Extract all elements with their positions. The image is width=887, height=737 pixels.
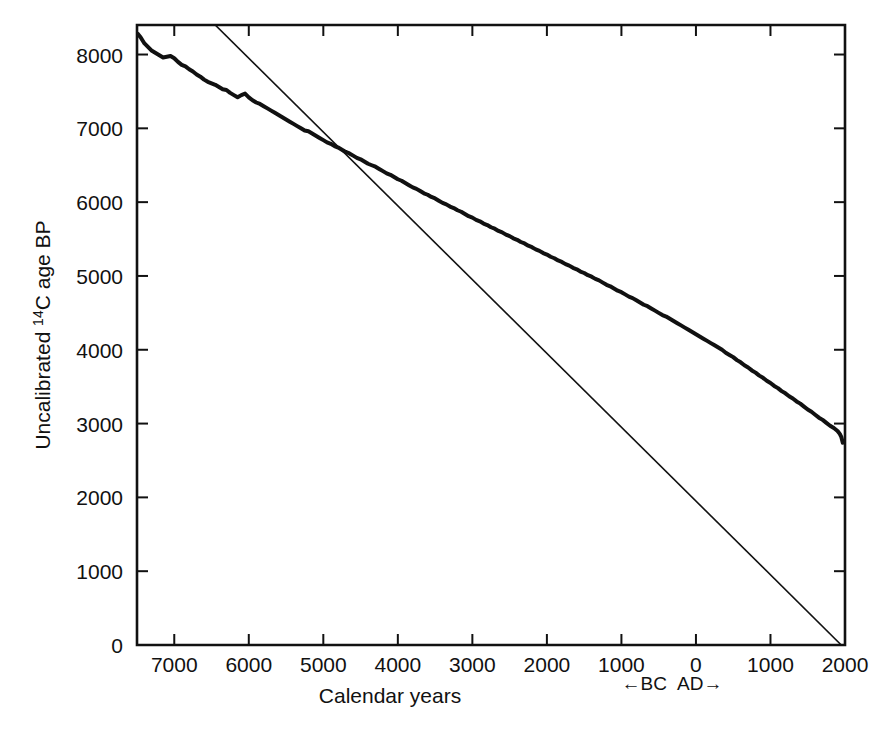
y-tick-label-8: 8000 <box>76 44 123 67</box>
y-tick-label-3: 3000 <box>76 413 123 436</box>
x-tick-label-2: 5000 <box>300 653 347 676</box>
x-tick-label-5: 2000 <box>524 653 571 676</box>
y-axis-title-after: C age BP <box>31 220 54 310</box>
x-axis-title: Calendar years <box>319 684 461 707</box>
era-left-arrow: ← <box>622 673 641 694</box>
y-axis-title-before: Uncalibrated <box>31 326 54 450</box>
x-tick-label-9: 2000 <box>822 653 869 676</box>
era-bc-label: BC <box>641 673 667 694</box>
y-axis-title: Uncalibrated 14C age BP <box>30 220 54 449</box>
x-tick-label-3: 4000 <box>374 653 421 676</box>
y-axis-tick-labels: 010002000300040005000600070008000 <box>76 44 123 657</box>
chart-background <box>0 0 887 737</box>
y-tick-label-1: 1000 <box>76 560 123 583</box>
x-tick-label-1: 6000 <box>225 653 272 676</box>
y-tick-label-5: 5000 <box>76 265 123 288</box>
x-tick-label-8: 1000 <box>747 653 794 676</box>
y-tick-label-4: 4000 <box>76 339 123 362</box>
x-tick-label-4: 3000 <box>449 653 496 676</box>
y-tick-label-7: 7000 <box>76 117 123 140</box>
y-tick-label-6: 6000 <box>76 191 123 214</box>
era-right-arrow: → <box>703 673 722 694</box>
radiocarbon-calibration-chart: 7000600050004000300020001000010002000 01… <box>0 0 887 737</box>
y-axis-title-superscript: 14 <box>30 310 46 326</box>
era-ad-label: AD <box>677 673 703 694</box>
figure-container: 7000600050004000300020001000010002000 01… <box>0 0 887 737</box>
y-tick-label-0: 0 <box>111 634 123 657</box>
x-tick-label-0: 7000 <box>151 653 198 676</box>
y-tick-label-2: 2000 <box>76 486 123 509</box>
